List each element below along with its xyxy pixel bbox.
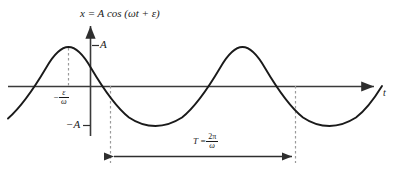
period-fraction: 2π ω xyxy=(206,133,218,151)
label-period: T = 2π ω xyxy=(193,133,218,151)
label-amplitude-positive: A xyxy=(100,39,107,50)
oscillation-figure: x = A cos (ωt + ε) A −A t − ε ω T = 2π ω xyxy=(0,0,400,175)
label-phase-shift: − ε ω xyxy=(53,89,69,107)
label-amplitude-negative: −A xyxy=(66,119,80,130)
phase-shift-denominator: ω xyxy=(59,98,69,106)
phase-shift-fraction: ε ω xyxy=(59,89,69,107)
label-t-axis: t xyxy=(383,88,386,98)
period-denominator: ω xyxy=(206,142,218,150)
period-lead: T = xyxy=(193,136,206,146)
equation-title: x = A cos (ωt + ε) xyxy=(80,8,160,19)
